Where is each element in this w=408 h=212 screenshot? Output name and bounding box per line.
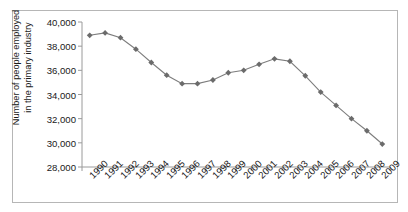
data-point-marker (102, 30, 108, 36)
y-axis-tick-label: 32,000 (32, 113, 76, 124)
y-axis-tick-label: 34,000 (32, 89, 76, 100)
y-axis-tick-label: 38,000 (32, 41, 76, 52)
y-axis-title: Number of people employed in the primary… (11, 0, 34, 148)
data-point-marker (256, 61, 262, 67)
data-point-marker (272, 56, 278, 62)
data-point-marker (210, 77, 216, 83)
data-point-marker (225, 70, 231, 76)
line-chart: Number of people employed in the primary… (0, 0, 408, 212)
data-point-marker (179, 81, 185, 87)
y-axis-tick-label: 30,000 (32, 137, 76, 148)
data-point-marker (241, 67, 247, 73)
plot-area (0, 0, 408, 212)
data-point-marker (195, 81, 201, 87)
data-point-marker (87, 32, 93, 38)
data-point-markers (87, 30, 385, 147)
y-axis-tick-label: 36,000 (32, 65, 76, 76)
y-axis-tick-label: 40,000 (32, 17, 76, 28)
y-axis-tick-label: 28,000 (32, 162, 76, 173)
y-axis-ticks (78, 22, 82, 167)
